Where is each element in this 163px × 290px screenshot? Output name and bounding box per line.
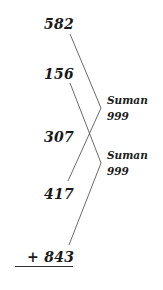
connector-lines [0,0,163,290]
number-156: 156 [44,66,74,82]
label-suman-1: Suman [107,93,148,108]
number-582: 582 [44,16,74,32]
number-307: 307 [44,129,74,145]
label-suman-2: Suman [107,148,148,163]
connector-line-1 [68,34,101,181]
sum-underline [15,266,73,267]
label-999-1: 999 [107,109,129,124]
number-843-sum: + 843 [27,249,74,265]
connector-line-2 [69,83,101,245]
number-417: 417 [44,186,74,202]
label-999-2: 999 [107,164,129,179]
